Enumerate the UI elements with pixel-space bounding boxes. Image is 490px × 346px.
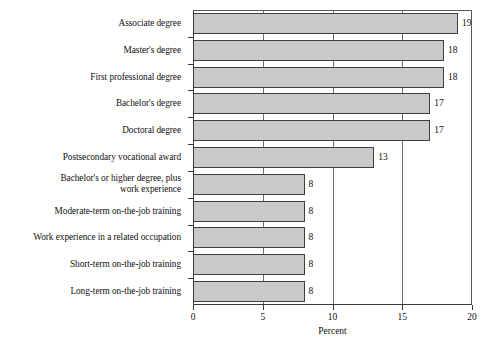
category-label: Short-term on-the-job training [0,259,186,270]
category-label: Moderate-term on-the-job training [0,206,186,217]
category-label-line: First professional degree [0,72,181,83]
category-label: Work experience in a related occupation [0,232,186,243]
category-label-line: Bachelor's or higher degree, plus [0,173,181,184]
y-axis-tick [188,144,193,145]
plot-frame [193,10,472,305]
x-axis-tick-label: 5 [248,311,278,323]
category-label-line: Bachelor's degree [0,98,181,109]
category-label: Master's degree [0,45,186,56]
x-axis-tick-label: 15 [387,311,417,323]
y-axis-tick [188,171,193,172]
category-label: Doctoral degree [0,125,186,136]
y-axis-tick [188,278,193,279]
x-axis-tick [333,305,334,310]
y-axis-tick [188,64,193,65]
category-label-line: Doctoral degree [0,125,181,136]
category-label-line: Postsecondary vocational award [0,152,181,163]
category-label: Bachelor's degree [0,98,186,109]
category-axis-labels: Associate degreeMaster's degreeFirst pro… [0,10,186,305]
x-axis-tick [193,305,194,310]
category-label-line: Long-term on-the-job training [0,286,181,297]
y-axis-tick [188,225,193,226]
y-axis-tick [188,117,193,118]
bar-chart: Associate degreeMaster's degreeFirst pro… [0,0,490,346]
x-axis-title: Percent [193,326,472,336]
category-label: Postsecondary vocational award [0,152,186,163]
y-axis-tick [188,198,193,199]
category-label: Long-term on-the-job training [0,286,186,297]
category-label-line: Moderate-term on-the-job training [0,206,181,217]
x-axis-tick-label: 10 [318,311,348,323]
category-label-line: Short-term on-the-job training [0,259,181,270]
category-label: Associate degree [0,18,186,29]
x-axis-tick [472,305,473,310]
category-label-line: Work experience in a related occupation [0,232,181,243]
y-axis-tick [188,90,193,91]
category-label: Bachelor's or higher degree, pluswork ex… [0,173,186,195]
x-axis-tick [263,305,264,310]
x-axis-tick [402,305,403,310]
category-label-line: Master's degree [0,45,181,56]
category-label-line: Associate degree [0,18,181,29]
y-axis-tick [188,251,193,252]
y-axis-tick [188,37,193,38]
x-axis-tick-label: 20 [457,311,487,323]
category-label: First professional degree [0,72,186,83]
category-label-line: work experience [0,184,181,195]
x-axis-tick-label: 0 [178,311,208,323]
